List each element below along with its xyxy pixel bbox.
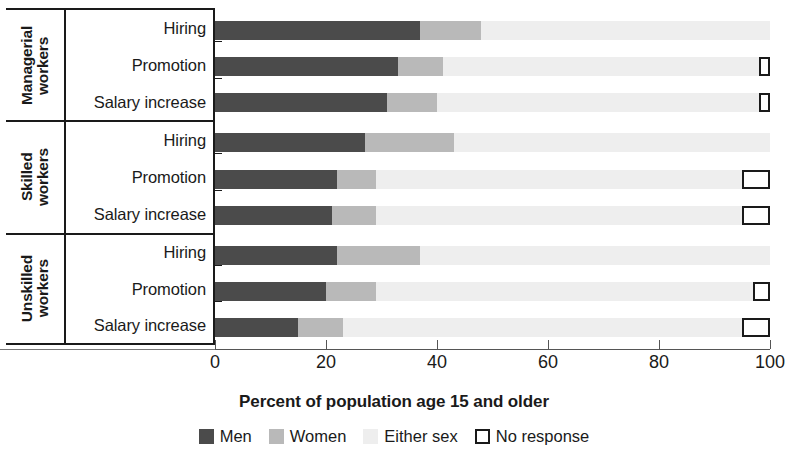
bar-segment-men: [215, 170, 337, 189]
x-tick: [326, 340, 327, 349]
x-tick: [437, 340, 438, 349]
x-tick-label: 100: [755, 352, 785, 373]
bar-segment-women: [337, 246, 420, 265]
row-label: Salary increase: [66, 94, 213, 111]
x-tick-label: 0: [210, 352, 220, 373]
bar-segment-women: [365, 133, 454, 152]
group-label-text: Skilled workers: [19, 148, 52, 206]
row-label: Hiring: [66, 244, 213, 261]
legend-item: Men: [199, 428, 252, 445]
group-label: Skilled workers: [6, 122, 64, 232]
bar-segment-no-response: [742, 170, 770, 189]
bar-segment-no-response: [742, 206, 770, 225]
x-tick: [659, 340, 660, 349]
bar-row: [215, 93, 770, 112]
bar-segment-women: [387, 93, 437, 112]
bar-row: [215, 318, 770, 337]
legend-item: Either sex: [363, 428, 457, 445]
bar-segment-women: [332, 206, 376, 225]
x-tick-label: 80: [649, 352, 669, 373]
x-tick-label: 60: [538, 352, 558, 373]
row-label: Promotion: [66, 57, 213, 74]
bar-segment-men: [215, 246, 337, 265]
bar-segment-men: [215, 318, 298, 337]
bar-segment-no-response: [759, 57, 770, 76]
category-group: Managerial workersHiringPromotionSalary …: [6, 8, 215, 120]
legend-item: No response: [475, 428, 590, 445]
group-row-labels: HiringPromotionSalary increase: [64, 122, 215, 232]
bar-segment-either-sex: [420, 246, 770, 265]
legend-swatch-women: [269, 429, 284, 444]
x-tick-label: 40: [427, 352, 447, 373]
x-axis-title: Percent of population age 15 and older: [0, 392, 788, 412]
bar-segment-either-sex: [376, 282, 753, 301]
bar-segment-men: [215, 133, 365, 152]
legend-label: Women: [290, 428, 347, 445]
group-label: Managerial workers: [6, 10, 64, 120]
x-tick: [548, 340, 549, 349]
bar-row: [215, 206, 770, 225]
category-group: Unskilled workersHiringPromotionSalary i…: [6, 233, 215, 345]
legend-item: Women: [269, 428, 347, 445]
bar-segment-either-sex: [454, 133, 770, 152]
x-tick: [770, 340, 771, 349]
legend-swatch-men: [199, 429, 214, 444]
bar-segment-men: [215, 93, 387, 112]
stacked-bar-chart: Managerial workersHiringPromotionSalary …: [0, 0, 788, 460]
bar-segment-men: [215, 206, 332, 225]
x-axis-line: [215, 349, 770, 350]
bar-row: [215, 246, 770, 265]
bar-segment-men: [215, 57, 398, 76]
bar-segment-men: [215, 21, 420, 40]
category-axis: Managerial workersHiringPromotionSalary …: [6, 8, 215, 345]
bar-segment-women: [420, 21, 481, 40]
legend-swatch-either-sex: [363, 429, 378, 444]
legend-label: No response: [496, 428, 590, 445]
legend-label: Either sex: [384, 428, 457, 445]
legend-label: Men: [220, 428, 252, 445]
bar-segment-no-response: [742, 318, 770, 337]
bar-row: [215, 133, 770, 152]
bar-segment-either-sex: [376, 170, 742, 189]
group-row-labels: HiringPromotionSalary increase: [64, 10, 215, 120]
row-label: Promotion: [66, 169, 213, 186]
row-label: Hiring: [66, 132, 213, 149]
row-label: Hiring: [66, 20, 213, 37]
group-label: Unskilled workers: [6, 235, 64, 343]
bar-segment-either-sex: [437, 93, 759, 112]
x-tick: [215, 340, 216, 349]
row-label: Salary increase: [66, 317, 213, 334]
group-row-labels: HiringPromotionSalary increase: [64, 235, 215, 343]
chart-legend: MenWomenEither sexNo response: [0, 428, 788, 445]
group-label-text: Unskilled workers: [19, 255, 52, 322]
bar-segment-women: [398, 57, 442, 76]
bar-segment-women: [298, 318, 342, 337]
bar-row: [215, 57, 770, 76]
bar-segment-men: [215, 282, 326, 301]
bar-segment-no-response: [753, 282, 770, 301]
x-axis-baseline-extension: [0, 349, 215, 350]
x-tick-label: 20: [316, 352, 336, 373]
bar-segment-women: [326, 282, 376, 301]
bar-segment-either-sex: [481, 21, 770, 40]
group-label-text: Managerial workers: [19, 26, 52, 105]
bar-row: [215, 170, 770, 189]
plot-area: [215, 8, 770, 345]
row-label: Promotion: [66, 281, 213, 298]
bar-segment-either-sex: [376, 206, 742, 225]
row-label: Salary increase: [66, 206, 213, 223]
bar-row: [215, 282, 770, 301]
bar-segment-either-sex: [343, 318, 743, 337]
bar-segment-no-response: [759, 93, 770, 112]
bar-segment-either-sex: [443, 57, 759, 76]
category-group: Skilled workersHiringPromotionSalary inc…: [6, 120, 215, 232]
bar-segment-women: [337, 170, 376, 189]
bar-row: [215, 21, 770, 40]
legend-swatch-no-response: [475, 429, 490, 444]
